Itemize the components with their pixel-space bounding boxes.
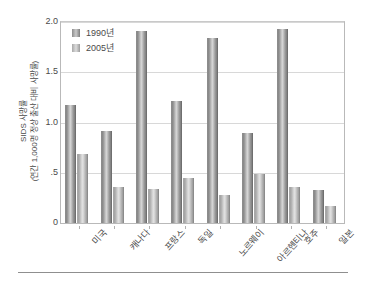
bar-2005 xyxy=(148,189,159,223)
bar-2005 xyxy=(325,206,336,223)
bar-2005 xyxy=(183,178,194,223)
bar-2005 xyxy=(77,154,88,223)
bar-1990 xyxy=(171,101,182,223)
x-tick-mark xyxy=(326,226,327,229)
y-axis-ticks: 0.51.01.52.0 xyxy=(28,0,58,282)
y-tick-label: 1.0 xyxy=(32,118,58,127)
y-tick-label: 1.5 xyxy=(32,67,58,76)
x-axis-labels: 미국캐나다프랑스독일노르웨이아르헨티나호주일본 xyxy=(61,226,344,272)
x-tick-mark xyxy=(185,226,186,229)
x-tick-mark xyxy=(256,226,257,229)
x-tick-mark xyxy=(220,226,221,229)
x-tick-label: 독일 xyxy=(196,228,214,247)
legend-label-2005: 2005년 xyxy=(86,44,114,53)
legend-swatch-1990 xyxy=(72,29,80,37)
x-tick-mark xyxy=(79,226,80,229)
legend-item-2005: 2005년 xyxy=(72,42,152,54)
x-tick-label: 프랑스 xyxy=(163,228,186,253)
footer-divider xyxy=(18,272,348,273)
bar-2005 xyxy=(219,195,230,223)
bar-2005 xyxy=(289,187,300,223)
y-tick-label: 0 xyxy=(32,218,58,227)
y-tick-label: .5 xyxy=(32,168,58,177)
x-tick-label: 캐나다 xyxy=(128,228,151,253)
y-tick-label: 2.0 xyxy=(32,17,58,26)
x-tick-label: 미국 xyxy=(90,228,108,247)
bar-1990 xyxy=(136,31,147,223)
bar-1990 xyxy=(277,29,288,223)
x-tick-label: 아르헨티나 xyxy=(275,228,309,264)
bar-2005 xyxy=(254,174,265,223)
bar-1990 xyxy=(101,131,112,223)
x-tick-mark xyxy=(114,226,115,229)
sids-mortality-bar-chart: SIDS 사망률 (연간 1,000명 정상 출산 대비 사망률) 0.51.0… xyxy=(0,0,365,282)
x-tick-label: 일본 xyxy=(338,228,356,247)
bar-2005 xyxy=(113,187,124,223)
x-tick-mark xyxy=(149,226,150,229)
bar-1990 xyxy=(207,38,218,223)
bar-1990 xyxy=(65,105,76,223)
legend: 1990년 2005년 xyxy=(72,27,152,57)
legend-item-1990: 1990년 xyxy=(72,27,152,39)
x-tick-mark xyxy=(291,226,292,229)
bar-1990 xyxy=(313,190,324,223)
x-tick-label: 노르웨이 xyxy=(237,228,266,258)
legend-label-1990: 1990년 xyxy=(86,29,114,38)
legend-swatch-2005 xyxy=(72,44,80,52)
bar-1990 xyxy=(242,133,253,223)
